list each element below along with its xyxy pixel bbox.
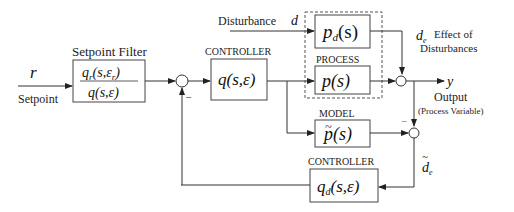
output-sublabel: (Process Variable) bbox=[418, 106, 484, 116]
disturbance-controller-title: CONTROLLER bbox=[308, 156, 374, 167]
estimated-effect-symbol: de bbox=[422, 160, 433, 177]
disturbance-effect-arrow bbox=[370, 31, 402, 74]
model-title: MODEL bbox=[319, 108, 355, 119]
disturbance-process-expr: pd(s) bbox=[321, 21, 358, 43]
disturbance-label: Disturbance bbox=[218, 14, 276, 28]
controller-title: CONTROLLER bbox=[205, 46, 271, 57]
setpoint-label: Setpoint bbox=[18, 92, 59, 106]
diagram-canvas: r Setpoint Setpoint Filter qr(s,εr) q(s,… bbox=[0, 0, 514, 212]
effect-label-line2: Disturbances bbox=[420, 42, 477, 54]
process-title: PROCESS bbox=[316, 54, 359, 65]
disturbance-symbol: d bbox=[291, 13, 299, 28]
sum1-minus-sign: – bbox=[185, 91, 192, 102]
effect-label-line1: Effect of bbox=[434, 28, 473, 40]
process-expr: p(s) bbox=[320, 71, 350, 92]
setpoint-filter-denominator: q(s,ε) bbox=[88, 85, 119, 101]
summing-junction-3 bbox=[409, 128, 419, 138]
output-label: Output bbox=[434, 90, 468, 104]
estimated-disturbance-arrow bbox=[379, 138, 414, 187]
setpoint-filter-title: Setpoint Filter bbox=[72, 44, 147, 59]
summing-junction-2 bbox=[396, 76, 406, 86]
summing-junction-1 bbox=[176, 75, 188, 87]
sum3-minus-sign: – bbox=[401, 115, 407, 125]
setpoint-filter-numerator: qr(s,εr) bbox=[82, 65, 120, 82]
disturbance-controller-expr: qd(s,ε) bbox=[317, 177, 360, 197]
imc-block-diagram: r Setpoint Setpoint Filter qr(s,εr) q(s,… bbox=[0, 0, 514, 212]
model-expr: p(s) bbox=[322, 124, 352, 145]
setpoint-symbol: r bbox=[30, 63, 37, 82]
output-symbol: y bbox=[445, 74, 454, 89]
controller-expr: q(s,ε) bbox=[218, 70, 256, 89]
controller-to-model-arrow bbox=[287, 81, 314, 133]
